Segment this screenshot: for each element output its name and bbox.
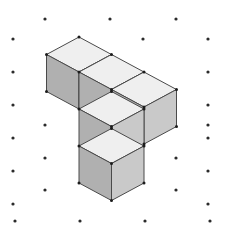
grid-dot (43, 17, 46, 20)
cube-vertex-marker (110, 88, 113, 91)
cube-vertex-marker (78, 108, 81, 111)
grid-dot (13, 219, 16, 222)
grid-dot (11, 169, 14, 172)
grid-dot (108, 17, 111, 20)
cube-vertex-marker (143, 106, 146, 109)
grid-dot (206, 70, 209, 73)
cube-vertex-marker (110, 127, 113, 130)
grid-dot (206, 136, 209, 139)
cube-vertex-marker (143, 71, 146, 74)
grid-dot (11, 70, 14, 73)
grid-dot (206, 103, 209, 106)
grid-dot (206, 202, 209, 205)
scene-svg (0, 0, 226, 229)
grid-dot (141, 37, 144, 40)
grid-dot (43, 188, 46, 191)
cube-vertex-marker (110, 53, 113, 56)
grid-dot (11, 103, 14, 106)
grid-dot (174, 188, 177, 191)
grid-dot (11, 202, 14, 205)
grid-dot (43, 123, 46, 126)
cube-vertex-marker (110, 162, 113, 165)
grid-dot (174, 156, 177, 159)
grid-dot (206, 37, 209, 40)
grid-dot (174, 17, 177, 20)
grid-dot (143, 219, 146, 222)
grid-dot (78, 219, 81, 222)
isometric-drawing-canvas (0, 0, 226, 229)
cube-vertex-marker (175, 125, 178, 128)
grid-dot (208, 219, 211, 222)
grid-dot (206, 123, 209, 126)
cube-vertex-marker (45, 90, 48, 93)
cube-vertex-marker (78, 71, 81, 74)
cube-vertex-marker (175, 88, 178, 91)
cube-vertex-marker (78, 145, 81, 148)
cube-vertex-marker (78, 36, 81, 39)
grid-dot (11, 37, 14, 40)
cube-vertex-marker (110, 199, 113, 202)
cube-vertex-marker (143, 145, 146, 148)
cube-vertex-marker (78, 182, 81, 185)
cube-vertex-marker (143, 182, 146, 185)
grid-dot (206, 169, 209, 172)
grid-dot (43, 156, 46, 159)
grid-dot (11, 136, 14, 139)
cube-vertex-marker (45, 53, 48, 56)
